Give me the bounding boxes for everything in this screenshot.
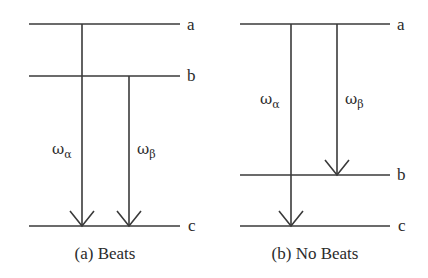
panel-b-level-b-label: b	[397, 166, 406, 183]
energy-level-diagram	[0, 0, 428, 278]
panel-b-level-c-label: c	[398, 217, 406, 234]
panel-b-level-a-label: a	[397, 16, 405, 33]
panel-b-caption: (b) No Beats	[250, 245, 380, 262]
panel-a-level-a-label: a	[187, 16, 195, 33]
panel-a-level-c-label: c	[188, 217, 196, 234]
panel-a-omega-alpha-label: ωα	[52, 142, 72, 160]
panel-a-level-b-label: b	[187, 67, 196, 84]
panel-a-omega-beta-label: ωβ	[137, 142, 156, 160]
panel-b-omega-beta-label: ωβ	[345, 92, 364, 110]
panel-b-omega-alpha-label: ωα	[260, 92, 280, 110]
panel-a-caption: (a) Beats	[50, 245, 160, 262]
